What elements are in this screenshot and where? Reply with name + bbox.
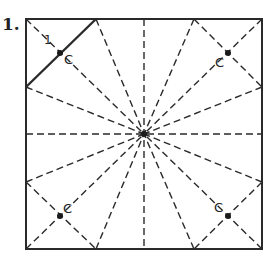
point-c-label: C (63, 201, 72, 216)
point-c-label: C (214, 200, 223, 215)
point-c-dot (225, 50, 231, 56)
point-c-label: C (64, 52, 73, 67)
point-c-dot (225, 213, 231, 219)
diagonal-crease-bl (26, 134, 144, 249)
crease-pattern (0, 0, 276, 260)
diagonal-crease-br (144, 134, 262, 249)
radial-crease (26, 87, 144, 134)
point-c-dot (57, 50, 63, 56)
point-c-label: C (215, 55, 224, 70)
radial-crease (96, 19, 144, 134)
fold-label: 1 (44, 33, 52, 47)
center-point-dot (141, 131, 147, 137)
diagonal-crease-tr (144, 19, 262, 134)
